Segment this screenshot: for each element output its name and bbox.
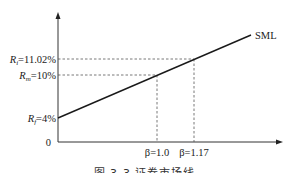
origin-label: 0 <box>46 137 51 148</box>
figure-caption-text: 图 3-3 证券市场线 <box>94 167 196 173</box>
beta1-label: β=1.0 <box>145 147 169 158</box>
figure-caption: 图 3-3 证券市场线 <box>0 164 289 173</box>
y-axis-arrow-icon <box>56 12 61 19</box>
sml-line <box>58 35 251 118</box>
rf-label: Rf=4% <box>27 113 57 126</box>
ri-label: Ri=11.02% <box>9 54 57 67</box>
x-axis-arrow-icon <box>276 140 283 145</box>
rm-label: Rm=10% <box>18 70 56 83</box>
sml-chart: SML Ri=11.02% Rm=10% Rf=4% 0 β=1.0 β=1.1… <box>0 0 289 173</box>
beta2-label: β=1.17 <box>179 147 209 158</box>
sml-label: SML <box>255 30 277 41</box>
